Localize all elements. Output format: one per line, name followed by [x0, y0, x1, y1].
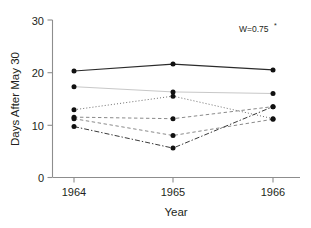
series-line-6 [74, 107, 273, 148]
data-point [171, 146, 176, 151]
annotation-significance-star: * [274, 22, 277, 29]
data-point [72, 107, 77, 112]
x-axis-title: Year [164, 206, 187, 218]
line-chart-canvas: 30 20 10 0 1964 1965 1966 Year Days Afte… [0, 0, 311, 228]
data-point [271, 117, 276, 122]
y-tick-label-20: 20 [32, 67, 44, 79]
data-point [171, 133, 176, 138]
y-tick-label-0: 0 [38, 172, 44, 184]
y-axis-ticks [48, 20, 53, 178]
chart-figure: 30 20 10 0 1964 1965 1966 Year Days Afte… [0, 0, 311, 228]
y-tick-label-30: 30 [32, 15, 44, 27]
data-point [171, 94, 176, 99]
y-axis-title: Days After May 30 [9, 52, 21, 146]
data-point [271, 104, 276, 109]
data-point [271, 67, 276, 72]
data-point [72, 68, 77, 73]
y-tick-label-10: 10 [32, 120, 44, 132]
data-point [72, 84, 77, 89]
data-point [171, 62, 176, 67]
x-axis-ticks [74, 178, 273, 183]
annotation-w-statistic: W=0.75 [239, 24, 269, 34]
data-point [271, 91, 276, 96]
series-line-5 [74, 119, 273, 136]
series-line-3 [74, 96, 273, 119]
x-tick-label-1964: 1964 [62, 186, 86, 198]
data-point [72, 124, 77, 129]
data-point [72, 116, 77, 121]
series-layer [72, 62, 276, 151]
data-point [171, 116, 176, 121]
x-tick-label-1965: 1965 [161, 186, 185, 198]
x-tick-label-1966: 1966 [261, 186, 285, 198]
